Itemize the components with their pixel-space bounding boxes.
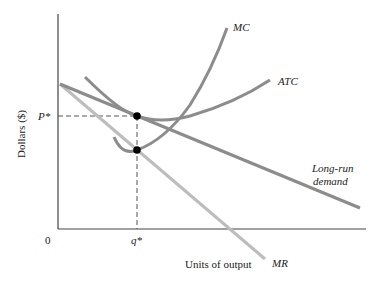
demand-label-line2: demand	[313, 175, 348, 187]
atc-curve	[85, 77, 270, 120]
tangency-point	[133, 112, 141, 120]
demand-curve	[60, 84, 360, 208]
origin-label: 0	[45, 234, 51, 246]
x-axis-label: Units of output	[185, 258, 252, 270]
mc-curve	[114, 28, 227, 151]
mc-mr-intersection-point	[133, 146, 141, 154]
price-tick-label: P*	[37, 110, 51, 122]
mr-curve	[60, 84, 265, 259]
y-axis-label: Dollars ($)	[15, 110, 28, 158]
atc-label: ATC	[277, 75, 298, 87]
mc-label: MC	[232, 21, 250, 33]
demand-label-line1: Long-run	[311, 162, 354, 174]
monopolistic-competition-diagram: MC ATC Long-run demand MR P* q* 0 Units …	[0, 0, 382, 284]
mr-label: MR	[271, 257, 288, 269]
quantity-tick-label: q*	[131, 234, 143, 246]
